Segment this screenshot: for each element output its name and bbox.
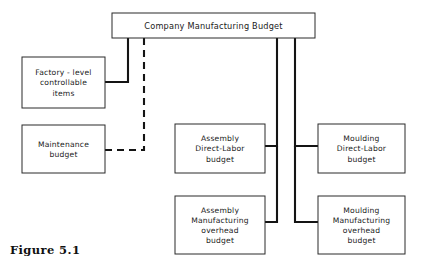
figure-caption: Figure 5.1 — [10, 243, 80, 257]
box-label-line: Manufacturing — [333, 216, 391, 225]
connector-company-to-moulding-branch — [295, 38, 318, 146]
figure-page: Company Manufacturing BudgetFactory - le… — [0, 0, 423, 274]
box-label-line: Direct-Labor — [337, 144, 387, 153]
box-label-line: controllable — [40, 78, 87, 87]
connector-company-to-assembly-branch — [265, 38, 277, 146]
box-company-manufacturing-budget: Company Manufacturing Budget — [112, 13, 315, 38]
box-label-line: overhead — [343, 226, 380, 235]
box-assembly-manufacturing-overhead-budget: AssemblyManufacturingoverheadbudget — [175, 196, 265, 254]
box-label-line: overhead — [201, 226, 238, 235]
box-label-line: Manufacturing — [191, 216, 249, 225]
box-label-line: Assembly — [201, 206, 240, 215]
budget-hierarchy-diagram: Company Manufacturing BudgetFactory - le… — [0, 0, 423, 274]
box-moulding-direct-labor-budget: MouldingDirect-Laborbudget — [318, 124, 405, 173]
box-label-line: budget — [49, 150, 77, 159]
box-label-line: Company Manufacturing Budget — [144, 21, 283, 31]
box-label-line: Moulding — [343, 134, 379, 143]
box-label-line: items — [52, 89, 74, 98]
box-label-line: Moulding — [343, 206, 379, 215]
box-maintenance-budget: Maintenancebudget — [22, 125, 105, 173]
box-label-line: budget — [206, 236, 234, 245]
connector-company-to-maintenance — [105, 38, 144, 150]
box-layer: Company Manufacturing BudgetFactory - le… — [22, 13, 405, 254]
box-label-line: budget — [347, 155, 375, 164]
box-moulding-manufacturing-overhead-budget: MouldingManufacturingoverheadbudget — [318, 196, 405, 254]
connector-company-to-factory-level — [105, 38, 128, 82]
box-label-line: budget — [206, 155, 234, 164]
connector-moulding-branch-to-overhead — [295, 146, 318, 222]
box-assembly-direct-labor-budget: AssemblyDirect-Laborbudget — [175, 124, 265, 173]
box-label-line: Assembly — [201, 134, 240, 143]
box-label-line: Factory - level — [35, 68, 91, 77]
box-label-line: Maintenance — [38, 140, 89, 149]
box-factory-level-controllable-items: Factory - levelcontrollableitems — [22, 57, 105, 108]
box-label-line: budget — [347, 236, 375, 245]
box-label-line: Direct-Labor — [195, 144, 245, 153]
connector-assembly-branch-to-overhead — [265, 146, 277, 222]
